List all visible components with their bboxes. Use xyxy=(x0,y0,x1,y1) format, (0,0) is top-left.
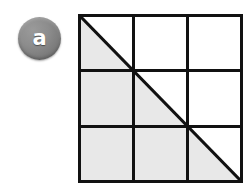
part-label-badge: a xyxy=(18,17,61,60)
part-label-letter: a xyxy=(32,28,46,49)
grid-diagram-svg xyxy=(78,14,243,183)
grid-diagram xyxy=(78,14,243,183)
figure-canvas: a xyxy=(0,0,249,183)
